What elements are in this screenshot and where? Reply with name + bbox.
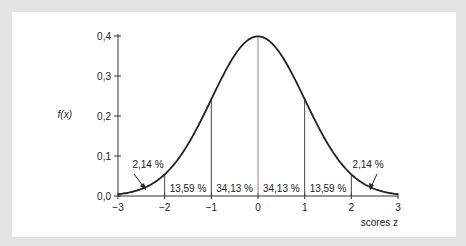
x-tick-label: 1 [302,202,308,213]
x-tick-label: 0 [255,202,261,213]
x-axis-label: scores z [361,217,398,228]
x-tick-label: −1 [206,202,218,213]
region-label: 13,59 % [170,183,207,194]
y-tick-label: 0,3 [97,71,111,82]
x-tick-label: 3 [395,202,401,213]
x-tick-label: 2 [349,202,355,213]
y-tick-label: 0,1 [97,151,111,162]
x-tick-label: −3 [112,202,124,213]
region-label: 2,14 % [352,159,383,170]
region-label: 34,13 % [216,183,253,194]
x-tick-label: −2 [159,202,171,213]
region-label: 34,13 % [263,183,300,194]
y-tick-label: 0,4 [97,31,111,42]
normal-distribution-chart: 0,00,10,20,30,4−3−2−101232,14 %13,59 %34… [0,0,466,246]
y-axis-label: f(x) [58,109,72,120]
y-tick-label: 0,2 [97,111,111,122]
region-label: 13,59 % [310,183,347,194]
region-label: 2,14 % [132,159,163,170]
y-tick-label: 0,0 [97,191,111,202]
